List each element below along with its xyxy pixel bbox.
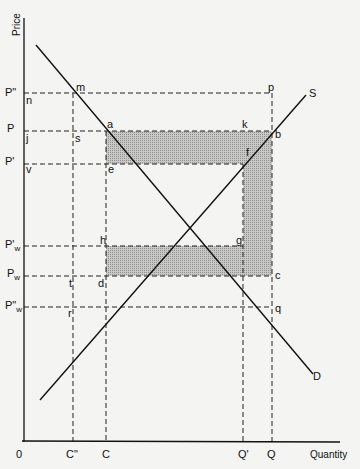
quantity-label-q1: Q' <box>238 448 249 460</box>
price-label-pw1: P'w <box>5 238 20 253</box>
price-label-pw: Pw <box>7 267 20 282</box>
point-label-c: c <box>275 269 281 281</box>
point-label-g: g <box>236 234 242 246</box>
supply-demand-diagram: Price Quantity 0 P" P P' P'w Pw P"w C" C… <box>0 0 360 469</box>
price-label-p2: P" <box>5 86 16 98</box>
price-label-pw2: P"w <box>5 299 22 314</box>
quantity-label-c2: C" <box>66 448 78 460</box>
point-label-h: h <box>100 234 106 246</box>
point-label-v: v <box>26 163 32 175</box>
price-label-p: P <box>7 122 14 134</box>
demand-label: D <box>313 370 321 382</box>
y-axis-title: Price <box>11 13 22 36</box>
x-axis-title: Quantity <box>310 449 347 460</box>
point-label-b: b <box>275 128 281 140</box>
point-label-d: d <box>98 277 104 289</box>
price-label-p1: P' <box>5 155 14 167</box>
point-label-r: r <box>68 307 72 319</box>
origin-label: 0 <box>16 448 22 460</box>
point-label-k: k <box>242 118 248 130</box>
shaded-region-hgcd <box>106 246 243 276</box>
point-label-n: n <box>26 94 32 106</box>
point-label-p: p <box>268 81 274 93</box>
point-label-m: m <box>76 81 85 93</box>
point-label-t: t <box>69 277 72 289</box>
point-label-e: e <box>108 163 114 175</box>
point-label-s: s <box>75 132 81 144</box>
quantity-label-q: Q <box>267 448 276 460</box>
point-label-q: q <box>275 302 281 314</box>
quantity-label-c: C <box>102 448 110 460</box>
point-label-j: j <box>25 132 28 144</box>
point-label-a: a <box>107 118 114 130</box>
x-axis <box>22 441 340 442</box>
supply-label: S <box>309 87 316 99</box>
shaded-region-akfe <box>106 131 243 164</box>
diagram-canvas: Price Quantity 0 P" P P' P'w Pw P"w C" C… <box>0 0 360 469</box>
